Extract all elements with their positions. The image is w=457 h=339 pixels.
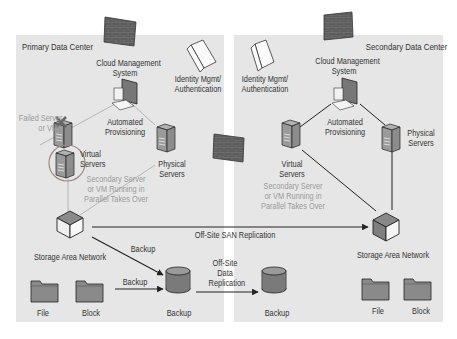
primary-file-label: File — [34, 308, 52, 318]
label-line: Replication — [209, 278, 242, 288]
san-replication-label: Off-Site SAN Replication — [190, 230, 280, 240]
physical-server-icon — [382, 124, 400, 152]
block-folder-icon — [76, 281, 103, 302]
label-line: Physical — [405, 128, 438, 138]
label-line: Cloud Management — [96, 58, 153, 68]
label-line: Parallel Takes Over — [83, 194, 149, 204]
label-line: System — [96, 68, 153, 78]
label-line: Physical — [156, 159, 189, 169]
primary-virtual-label: Virtual Servers — [80, 149, 105, 169]
secondary-block-label: Block — [410, 306, 431, 316]
primary-secondary-note: Secondary Server or VM Running in Parall… — [83, 174, 149, 204]
secondary-virtual-label: Virtual Servers — [276, 159, 309, 179]
firewall-icon — [324, 12, 353, 40]
label-line: Provisioning — [105, 127, 146, 137]
secondary-file-label: File — [369, 306, 387, 316]
label-line: Provisioning — [325, 127, 366, 137]
computer-icon — [332, 78, 357, 110]
label-line: or VM Running in — [260, 191, 326, 201]
file-folder-icon — [31, 281, 58, 302]
secondary-cms-label: Cloud Management System — [315, 56, 372, 76]
data-replication-label: Off-Site Data Replication — [209, 258, 242, 288]
primary-title: Primary Data Center — [22, 42, 93, 52]
label-line: Off-Site — [209, 258, 242, 268]
primary-identity-label: Identity Mgmt/ Authentication — [172, 74, 224, 94]
label-line: Servers — [156, 169, 189, 179]
label-line: System — [315, 66, 372, 76]
label-line: Data — [209, 268, 242, 278]
label-line: or VM Running in — [83, 184, 149, 194]
secondary-identity-label: Identity Mgmt/ Authentication — [240, 74, 291, 94]
block-folder-icon — [404, 279, 431, 300]
primary-san-label: Storage Area Network — [33, 252, 107, 262]
secondary-title: Secondary Data Center — [366, 42, 438, 52]
label-line: Servers — [276, 169, 309, 179]
secondary-physical-label: Physical Servers — [405, 128, 438, 148]
firewall-icon — [213, 134, 244, 162]
label-line: Identity Mgmt/ — [172, 74, 224, 84]
identity-book-icon — [187, 40, 216, 72]
backup-database-icon — [166, 267, 190, 293]
virtual-server-icon — [282, 120, 300, 148]
firewall-icon — [104, 17, 136, 46]
label-line: Secondary Server — [83, 174, 149, 184]
primary-block-label: Block — [80, 308, 101, 318]
file-folder-icon — [362, 279, 389, 300]
label-line: Identity Mgmt/ — [240, 74, 291, 84]
label-line: Parallel Takes Over — [260, 201, 326, 211]
primary-physical-label: Physical Servers — [156, 159, 189, 179]
secondary-secondary-note: Secondary Server or VM Running in Parall… — [260, 181, 326, 211]
label-line: Virtual — [80, 149, 105, 159]
label-line: Secondary Server — [260, 181, 326, 191]
label-line: Servers — [80, 159, 105, 169]
storage-cube-icon — [373, 213, 399, 241]
virtual-server-icon — [56, 150, 74, 178]
backup-database-icon — [262, 267, 286, 293]
identity-book-icon — [251, 40, 274, 71]
label-line: or VM — [19, 123, 58, 133]
storage-cube-icon — [57, 211, 83, 238]
primary-backup-db-label: Backup — [167, 308, 192, 318]
label-line: Automated — [325, 117, 366, 127]
label-line: Cloud Management — [315, 56, 372, 66]
label-line: Failed Server — [19, 113, 58, 123]
primary-cms-label: Cloud Management System — [96, 58, 153, 78]
computer-icon — [112, 79, 137, 110]
label-line: Automated — [105, 117, 146, 127]
label-line: Authentication — [240, 84, 291, 94]
backup-arrow-label: Backup — [123, 277, 148, 287]
label-line: Authentication — [172, 84, 224, 94]
secondary-automated-label: Automated Provisioning — [325, 117, 366, 137]
label-line: Virtual — [276, 159, 309, 169]
backup-arrow-label: Backup — [131, 244, 156, 254]
secondary-san-label: Storage Area Network — [356, 250, 430, 260]
primary-automated-label: Automated Provisioning — [105, 117, 146, 137]
physical-server-icon — [157, 124, 175, 152]
secondary-backup-db-label: Backup — [265, 308, 290, 318]
failed-server-label: Failed Server or VM — [19, 113, 58, 133]
label-line: Servers — [405, 138, 438, 148]
